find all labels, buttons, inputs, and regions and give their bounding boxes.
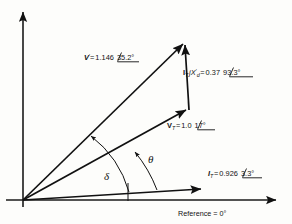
v-prime-magnitude: 1.146 xyxy=(95,53,114,62)
vt-equals: = xyxy=(176,121,180,130)
it-equals: = xyxy=(214,169,218,178)
it-jxd-equals: = xyxy=(200,68,204,77)
vt-magnitude: 1.0 xyxy=(181,121,191,130)
svg-text:IT=0.9263.3°: IT=0.9263.3° xyxy=(208,169,254,179)
angle-arcs-group xyxy=(91,136,157,201)
phasor-v-prime-line xyxy=(23,44,183,200)
it-jxd-angle: 93.3° xyxy=(223,68,240,77)
reference-axis-label: Reference = 0° xyxy=(178,209,227,218)
phasor-vt-line xyxy=(23,110,186,200)
svg-text:ITjX′d=0.3793.3°: ITjX′d=0.3793.3° xyxy=(183,68,241,78)
svg-text:V′=1.14635.2°: V′=1.14635.2° xyxy=(84,53,134,62)
phasor-diagram-canvas: δ θ V′=1.14635.2° ITjX′d=0.3793.3° VT=1.… xyxy=(0,0,292,224)
svg-text:VT=1.017°: VT=1.017° xyxy=(167,121,206,131)
it-jxd-magnitude: 0.37 xyxy=(206,68,220,77)
v-prime-equals: = xyxy=(90,53,94,62)
it-magnitude: 0.926 xyxy=(219,169,238,178)
delta-angle-label: δ xyxy=(104,170,110,182)
theta-angle-label: θ xyxy=(148,153,154,165)
label-v-prime: V′=1.14635.2° xyxy=(84,53,139,63)
label-vt: VT=1.017° xyxy=(167,121,215,131)
label-it-jxd: ITjX′d=0.3793.3° xyxy=(183,68,253,78)
phasor-it-line xyxy=(23,189,201,200)
theta-arc xyxy=(135,152,157,190)
label-it: IT=0.9263.3° xyxy=(208,169,262,179)
phasors-group xyxy=(23,44,201,200)
phasor-diagram-figure: δ θ V′=1.14635.2° ITjX′d=0.3793.3° VT=1.… xyxy=(0,0,292,224)
